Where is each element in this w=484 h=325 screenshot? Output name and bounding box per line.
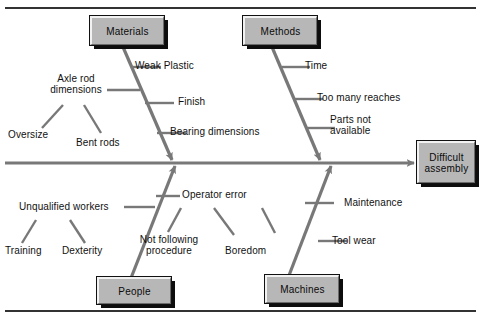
not-following-line2: procedure bbox=[146, 245, 192, 256]
diagram-lines-layer bbox=[0, 0, 484, 325]
cause-label-time: Time bbox=[305, 60, 327, 71]
axle-rod-line2: dimensions bbox=[50, 84, 102, 95]
subcause-label-bent-rods: Bent rods bbox=[76, 137, 120, 148]
category-label-materials: Materials bbox=[106, 26, 148, 37]
twig-bent-rods bbox=[84, 105, 101, 133]
category-box-machines[interactable]: Machines bbox=[265, 275, 339, 303]
cause-label-tool-wear: Tool wear bbox=[332, 235, 376, 246]
category-box-people[interactable]: People bbox=[97, 277, 171, 304]
cause-label-axle-rod-dimensions: Axle rod dimensions bbox=[45, 73, 107, 95]
twig-training bbox=[22, 220, 36, 243]
category-box-methods[interactable]: Methods bbox=[243, 16, 317, 45]
twig-boredom bbox=[214, 208, 234, 235]
branch-people bbox=[131, 166, 175, 278]
category-label-methods: Methods bbox=[261, 26, 301, 37]
effect-box-difficult-assembly[interactable]: Difficult assembly bbox=[417, 141, 475, 183]
cause-label-too-many-reaches: Too many reaches bbox=[317, 92, 400, 103]
effect-label-line1: Difficult bbox=[429, 152, 463, 163]
subcause-label-dexterity: Dexterity bbox=[62, 245, 102, 256]
axle-rod-line1: Axle rod bbox=[57, 73, 95, 84]
category-label-people: People bbox=[118, 286, 150, 297]
parts-line1: Parts not bbox=[330, 114, 371, 125]
category-label-machines: Machines bbox=[280, 284, 324, 295]
cause-label-operator-error: Operator error bbox=[182, 189, 247, 200]
subcause-label-boredom: Boredom bbox=[225, 245, 266, 256]
subcause-label-training: Training bbox=[5, 245, 42, 256]
subcause-label-oversize: Oversize bbox=[8, 129, 48, 140]
branch-machines bbox=[288, 166, 331, 278]
cause-label-weak-plastic: Weak Plastic bbox=[135, 60, 194, 71]
twig-oversize bbox=[42, 105, 63, 128]
effect-label-line2: assembly bbox=[425, 163, 469, 174]
parts-line2: available bbox=[330, 125, 370, 136]
twig-not-following-procedure bbox=[168, 208, 181, 232]
twig-operator-error-right bbox=[262, 208, 275, 233]
fishbone-diagram: Materials Methods People Machines Diffic… bbox=[0, 0, 484, 325]
cause-label-maintenance: Maintenance bbox=[344, 197, 402, 208]
not-following-line1: Not following bbox=[140, 234, 199, 245]
cause-label-unqualified-workers: Unqualified workers bbox=[19, 201, 109, 212]
cause-label-bearing-dimensions: Bearing dimensions bbox=[170, 126, 260, 137]
twig-dexterity bbox=[70, 220, 85, 243]
cause-label-finish: Finish bbox=[178, 96, 205, 107]
subcause-label-not-following-procedure: Not following procedure bbox=[134, 234, 204, 256]
cause-label-parts-not-available: Parts not available bbox=[330, 114, 390, 136]
category-box-materials[interactable]: Materials bbox=[90, 16, 164, 45]
